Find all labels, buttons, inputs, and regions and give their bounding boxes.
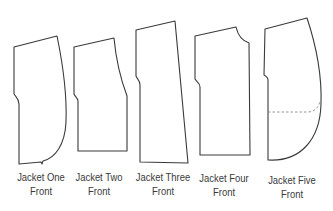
label-jacket-two: Jacket Two Front	[72, 170, 126, 198]
jacket-one-front-outline	[14, 36, 66, 164]
label-jacket-four: Jacket Four Front	[194, 171, 253, 199]
label-jacket-five-line1: Jacket Five	[262, 173, 321, 187]
label-jacket-five-line2: Front	[262, 187, 321, 201]
label-jacket-five: Jacket Five Front	[262, 173, 321, 201]
jacket-four-front-outline	[195, 27, 250, 155]
label-jacket-four-line2: Front	[194, 185, 253, 199]
jacket-two-front-outline	[74, 38, 127, 151]
label-jacket-one: Jacket One Front	[14, 170, 68, 198]
label-jacket-three-line1: Jacket Three	[131, 170, 195, 184]
jacket-five-front-outline	[264, 18, 321, 160]
label-jacket-three-line2: Front	[131, 184, 195, 198]
jacket-three-front-outline	[136, 21, 188, 163]
label-jacket-one-line1: Jacket One	[14, 170, 68, 184]
label-jacket-two-line2: Front	[72, 184, 126, 198]
label-jacket-four-line1: Jacket Four	[194, 171, 253, 185]
label-jacket-one-line2: Front	[14, 184, 68, 198]
label-jacket-three: Jacket Three Front	[131, 170, 195, 198]
label-jacket-two-line1: Jacket Two	[72, 170, 126, 184]
jacket-five-pocket-line	[268, 102, 320, 112]
